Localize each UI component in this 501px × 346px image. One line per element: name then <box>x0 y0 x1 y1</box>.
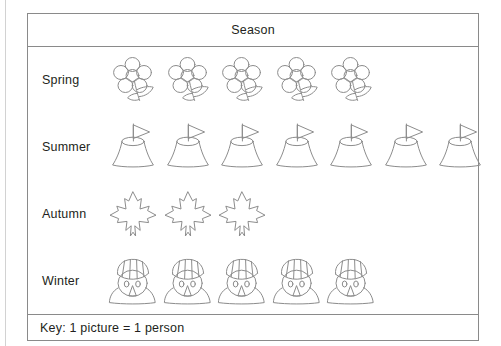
table-key-row: Key: 1 picture = 1 person <box>28 314 478 340</box>
sandcastle-icon <box>106 114 161 181</box>
icon-strip-summer <box>106 114 488 181</box>
row-label-autumn: Autumn <box>28 207 106 221</box>
flower-icon <box>106 47 161 114</box>
snowman-icon <box>215 247 270 314</box>
flower-icon <box>161 47 216 114</box>
row-label-summer: Summer <box>28 140 106 154</box>
key-legend-text: Key: 1 picture = 1 person <box>40 321 184 335</box>
snowman-icon <box>324 247 379 314</box>
sandcastle-icon <box>433 114 488 181</box>
snowman-icon <box>106 247 161 314</box>
icon-strip-spring <box>106 47 478 114</box>
icon-strip-autumn <box>106 181 478 248</box>
flower-icon <box>215 47 270 114</box>
sandcastle-icon <box>270 114 325 181</box>
snowman-icon <box>161 247 216 314</box>
maple-leaf-icon <box>161 181 216 248</box>
pictograph-table: Season SpringSummerAutumnWinter Key: 1 p… <box>27 13 479 341</box>
flower-icon <box>270 47 325 114</box>
page-title: Season <box>231 23 275 37</box>
pictograph-row-summer: Summer <box>28 114 478 181</box>
pictograph-row-winter: Winter <box>28 247 478 314</box>
sandcastle-icon <box>161 114 216 181</box>
maple-leaf-icon <box>106 181 161 248</box>
pictograph-row-autumn: Autumn <box>28 181 478 248</box>
sandcastle-icon <box>379 114 434 181</box>
page-margin-rule <box>5 0 6 346</box>
maple-leaf-icon <box>215 181 270 248</box>
row-label-winter: Winter <box>28 274 106 288</box>
icon-strip-winter <box>106 247 478 314</box>
snowman-icon <box>270 247 325 314</box>
pictograph-row-spring: Spring <box>28 47 478 114</box>
row-label-spring: Spring <box>28 73 106 87</box>
sandcastle-icon <box>324 114 379 181</box>
sandcastle-icon <box>215 114 270 181</box>
pictograph-rows: SpringSummerAutumnWinter <box>28 47 478 314</box>
flower-icon <box>324 47 379 114</box>
table-header-row: Season <box>28 14 478 47</box>
